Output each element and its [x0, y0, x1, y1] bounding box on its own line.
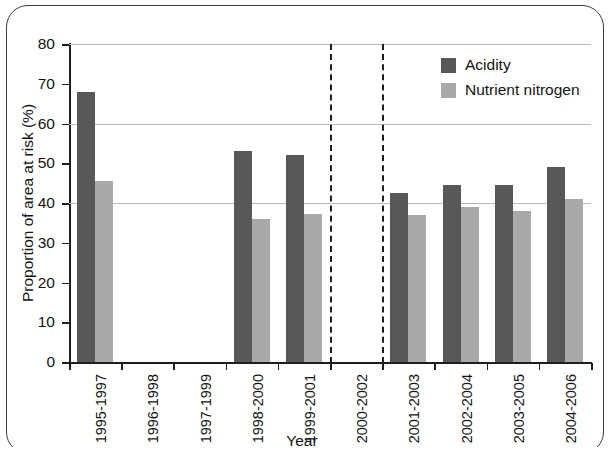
bar-nutrient-nitrogen-1999-2001: [304, 214, 322, 362]
bar-acidity-1998-2000: [234, 151, 252, 362]
bar-acidity-2001-2003: [390, 193, 408, 362]
bar-acidity-1999-2001: [286, 155, 304, 362]
y-tick-label-80: 80: [38, 35, 55, 53]
x-tick-0: [69, 363, 71, 370]
frame-bottom-mask: [4, 447, 606, 457]
y-tick-label-50: 50: [38, 154, 55, 172]
bar-acidity-2004-2006: [547, 167, 565, 362]
chart-legend: Acidity Nutrient nitrogen: [441, 56, 580, 106]
bar-nutrient-nitrogen-2001-2003: [408, 215, 426, 362]
x-axis-ticks: [69, 363, 592, 371]
legend-label-nutrient-nitrogen: Nutrient nitrogen: [465, 81, 580, 99]
legend-swatch-acidity: [441, 58, 456, 73]
y-tick-0: [62, 362, 69, 364]
legend-item: Acidity: [441, 56, 580, 74]
y-tick-30: [62, 243, 69, 245]
dashed-separator-1: [330, 44, 332, 363]
x-tick-6: [382, 363, 384, 370]
y-tick-70: [62, 84, 69, 86]
y-tick-label-70: 70: [38, 75, 55, 93]
bar-acidity-2002-2004: [443, 185, 461, 362]
x-tick-2: [173, 363, 175, 370]
legend-swatch-nutrient-nitrogen: [441, 83, 456, 98]
y-tick-80: [62, 44, 69, 46]
bar-nutrient-nitrogen-2003-2005: [513, 211, 531, 362]
x-tick-end: [591, 363, 593, 370]
y-tick-label-10: 10: [38, 313, 55, 331]
y-tick-20: [62, 283, 69, 285]
x-tick-9: [539, 363, 541, 370]
x-tick-3: [226, 363, 228, 370]
bar-acidity-1995-1997: [77, 92, 95, 362]
x-tick-7: [434, 363, 436, 370]
y-tick-50: [62, 163, 69, 165]
bar-acidity-2003-2005: [495, 185, 513, 362]
chart-figure: Proportion of area at risk (%) 010203040…: [0, 0, 610, 457]
y-tick-10: [62, 322, 69, 324]
legend-item: Nutrient nitrogen: [441, 81, 580, 99]
y-tick-label-30: 30: [38, 234, 55, 252]
y-axis-title: Proportion of area at risk (%): [19, 104, 37, 302]
y-tick-40: [62, 203, 69, 205]
y-tick-label-20: 20: [38, 274, 55, 292]
y-tick-label-40: 40: [38, 194, 55, 212]
y-tick-label-0: 0: [46, 353, 55, 371]
bar-nutrient-nitrogen-2002-2004: [461, 207, 479, 362]
x-tick-4: [278, 363, 280, 370]
x-tick-8: [487, 363, 489, 370]
bar-nutrient-nitrogen-1995-1997: [95, 181, 113, 362]
y-tick-label-60: 60: [38, 115, 55, 133]
bar-nutrient-nitrogen-2004-2006: [565, 199, 583, 362]
legend-label-acidity: Acidity: [465, 56, 511, 74]
y-tick-60: [62, 124, 69, 126]
x-tick-5: [330, 363, 332, 370]
x-tick-1: [121, 363, 123, 370]
bar-nutrient-nitrogen-1998-2000: [252, 219, 270, 362]
dashed-separator-2: [382, 44, 384, 363]
